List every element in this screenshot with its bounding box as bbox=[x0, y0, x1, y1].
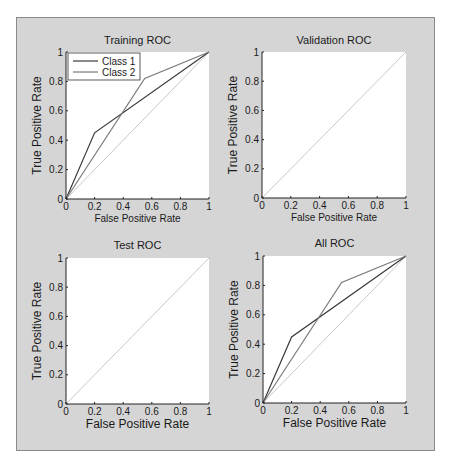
x-tick-label: 0.2 bbox=[284, 200, 298, 211]
x-tick-label: 0.6 bbox=[341, 200, 355, 211]
y-tick-label: 0.4 bbox=[49, 340, 63, 351]
y-tick-label: 0.2 bbox=[49, 369, 63, 380]
x-axis-label: False Positive Rate bbox=[291, 212, 378, 223]
legend: Class 1Class 2 bbox=[68, 53, 140, 80]
x-tick-label: 0.8 bbox=[173, 406, 187, 417]
x-tick-label: 0.2 bbox=[88, 201, 102, 212]
x-tick-label: 0 bbox=[260, 405, 266, 416]
y-tick-label: 1 bbox=[57, 47, 63, 58]
y-tick-label: 1 bbox=[254, 251, 260, 262]
y-tick-label: 0.4 bbox=[246, 339, 260, 350]
x-tick-label: 0.2 bbox=[285, 405, 299, 416]
y-axis-label: True Positive Rate bbox=[227, 280, 241, 379]
y-tick-label: 0.8 bbox=[49, 282, 63, 293]
y-tick-label: 0.6 bbox=[246, 309, 260, 320]
y-tick-label: 0.6 bbox=[245, 105, 259, 116]
roc-panel-all: All ROC00.20.40.60.8100.20.40.60.81False… bbox=[227, 237, 409, 430]
y-tick-label: 0 bbox=[57, 399, 63, 410]
y-tick-label: 1 bbox=[253, 47, 259, 58]
x-tick-label: 1 bbox=[206, 201, 212, 212]
y-tick-label: 0.6 bbox=[49, 311, 63, 322]
y-tick-label: 0.4 bbox=[245, 134, 259, 145]
x-axis-label: False Positive Rate bbox=[94, 213, 181, 224]
x-tick-label: 1 bbox=[403, 200, 409, 211]
x-tick-label: 0.4 bbox=[313, 200, 327, 211]
chart-title: Test ROC bbox=[114, 239, 162, 251]
roc-chart-grid: Training ROC00.20.40.60.8100.20.40.60.81… bbox=[0, 0, 450, 468]
x-tick-label: 0.8 bbox=[370, 405, 384, 416]
x-tick-label: 0.4 bbox=[313, 405, 327, 416]
x-tick-label: 0 bbox=[63, 201, 69, 212]
y-tick-label: 0 bbox=[254, 398, 260, 409]
x-tick-label: 0.6 bbox=[342, 405, 356, 416]
y-axis-label: True Positive Rate bbox=[30, 76, 44, 175]
chart-title: Training ROC bbox=[104, 34, 171, 46]
x-axis-label: False Positive Rate bbox=[86, 417, 190, 431]
x-tick-label: 0.8 bbox=[173, 201, 187, 212]
y-axis-label: True Positive Rate bbox=[226, 76, 240, 175]
legend-label: Class 1 bbox=[102, 56, 136, 67]
x-tick-label: 0.4 bbox=[116, 406, 130, 417]
y-tick-label: 0.8 bbox=[49, 76, 63, 87]
x-tick-label: 0.8 bbox=[370, 200, 384, 211]
x-tick-label: 0 bbox=[63, 406, 69, 417]
y-tick-label: 0.2 bbox=[246, 368, 260, 379]
x-tick-label: 1 bbox=[403, 405, 409, 416]
y-tick-label: 0.4 bbox=[49, 135, 63, 146]
x-axis-label: False Positive Rate bbox=[283, 416, 387, 430]
legend-label: Class 2 bbox=[102, 67, 136, 78]
x-tick-label: 0.6 bbox=[145, 201, 159, 212]
y-axis-label: True Positive Rate bbox=[30, 282, 44, 381]
y-tick-label: 0.6 bbox=[49, 105, 63, 116]
x-tick-label: 0.4 bbox=[116, 201, 130, 212]
y-tick-label: 0 bbox=[57, 194, 63, 205]
y-tick-label: 1 bbox=[57, 253, 63, 264]
y-tick-label: 0.2 bbox=[245, 163, 259, 174]
y-tick-label: 0.2 bbox=[49, 164, 63, 175]
chart-title: Validation ROC bbox=[297, 34, 372, 46]
y-tick-label: 0 bbox=[253, 193, 259, 204]
x-tick-label: 1 bbox=[206, 406, 212, 417]
x-tick-label: 0 bbox=[259, 200, 265, 211]
x-tick-label: 0.2 bbox=[88, 406, 102, 417]
y-tick-label: 0.8 bbox=[245, 76, 259, 87]
roc-panel-test: Test ROC00.20.40.60.8100.20.40.60.81Fals… bbox=[30, 239, 212, 431]
roc-panel-training: Training ROC00.20.40.60.8100.20.40.60.81… bbox=[30, 34, 212, 224]
roc-panel-validation: Validation ROC00.20.40.60.8100.20.40.60.… bbox=[226, 34, 409, 223]
chart-title: All ROC bbox=[315, 237, 355, 249]
y-tick-label: 0.8 bbox=[246, 280, 260, 291]
x-tick-label: 0.6 bbox=[145, 406, 159, 417]
